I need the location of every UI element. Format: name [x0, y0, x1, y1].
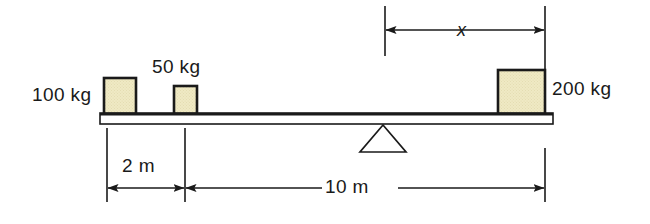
- beam: [100, 113, 553, 124]
- mass-100kg-block: [104, 78, 136, 114]
- dimension-10m-label: 10 m: [325, 176, 369, 198]
- fulcrum: [360, 125, 406, 152]
- mass-50kg-label: 50 kg: [152, 56, 200, 78]
- mass-50kg-block: [174, 86, 197, 114]
- mass-200kg-block: [498, 70, 545, 114]
- dimension-2m-label: 2 m: [122, 155, 155, 177]
- lever-diagram: 100 kg 50 kg 200 kg x 2 m 10 m: [0, 0, 650, 224]
- dimension-x-label: x: [457, 20, 466, 41]
- mass-200kg-label: 200 kg: [552, 78, 611, 100]
- mass-100kg-label: 100 kg: [32, 84, 91, 106]
